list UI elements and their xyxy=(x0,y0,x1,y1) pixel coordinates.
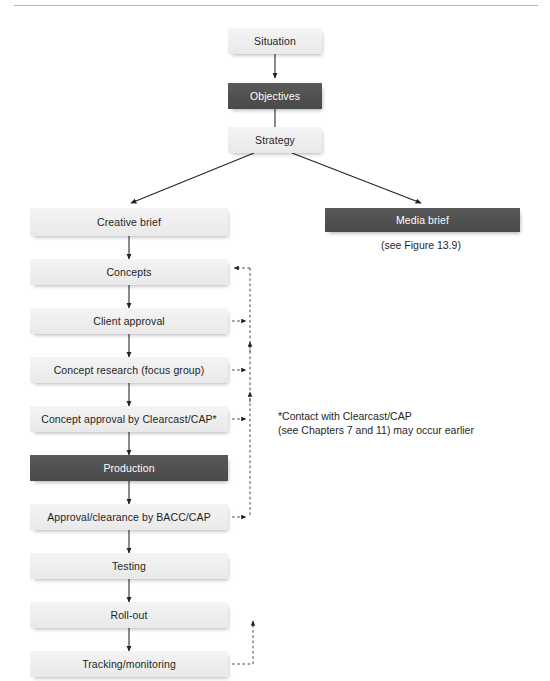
clearcast-footnote-text: *Contact with Clearcast/CAP (see Chapter… xyxy=(278,410,474,436)
node-concept-approval[interactable]: Concept approval by Clearcast/CAP* xyxy=(30,406,228,432)
node-media-brief[interactable]: Media brief xyxy=(325,208,520,232)
node-concept-research[interactable]: Concept research (focus group) xyxy=(30,357,228,383)
media-brief-caption-text: (see Figure 13.9) xyxy=(381,239,461,251)
node-objectives-label: Objectives xyxy=(250,90,300,102)
node-situation[interactable]: Situation xyxy=(228,28,322,54)
node-objectives[interactable]: Objectives xyxy=(228,83,322,109)
node-strategy[interactable]: Strategy xyxy=(228,127,322,153)
node-client-approval-label: Client approval xyxy=(93,315,165,327)
node-production-label: Production xyxy=(103,462,154,474)
node-approval-clearance-label: Approval/clearance by BACC/CAP xyxy=(47,511,211,523)
node-concepts-label: Concepts xyxy=(106,266,151,278)
node-concept-research-label: Concept research (focus group) xyxy=(54,364,205,376)
node-creative-brief[interactable]: Creative brief xyxy=(30,208,228,236)
node-client-approval[interactable]: Client approval xyxy=(30,308,228,334)
node-concepts[interactable]: Concepts xyxy=(30,259,228,285)
figure-canvas: Situation Objectives Strategy Creative b… xyxy=(0,0,550,681)
node-rollout-label: Roll-out xyxy=(111,609,148,621)
node-tracking-monitoring-label: Tracking/monitoring xyxy=(82,658,176,670)
top-rule xyxy=(14,5,538,6)
node-testing-label: Testing xyxy=(112,560,146,572)
node-rollout[interactable]: Roll-out xyxy=(30,602,228,628)
node-approval-clearance[interactable]: Approval/clearance by BACC/CAP xyxy=(30,504,228,530)
media-brief-caption: (see Figure 13.9) xyxy=(381,239,461,251)
node-tracking-monitoring[interactable]: Tracking/monitoring xyxy=(30,651,228,677)
node-strategy-label: Strategy xyxy=(255,134,295,146)
node-creative-brief-label: Creative brief xyxy=(97,216,161,228)
node-production[interactable]: Production xyxy=(30,455,228,481)
node-concept-approval-label: Concept approval by Clearcast/CAP* xyxy=(41,413,217,425)
node-situation-label: Situation xyxy=(254,35,296,47)
node-testing[interactable]: Testing xyxy=(30,553,228,579)
clearcast-footnote: *Contact with Clearcast/CAP (see Chapter… xyxy=(278,395,474,437)
node-media-brief-label: Media brief xyxy=(396,214,449,226)
